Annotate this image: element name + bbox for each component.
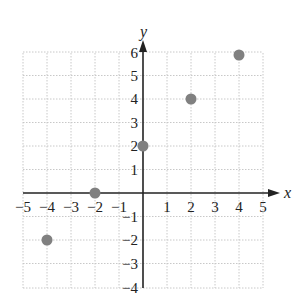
y-tick: −4 bbox=[122, 280, 138, 296]
y-axis-label: y bbox=[138, 23, 148, 41]
y-tick: 4 bbox=[131, 91, 139, 107]
y-tick: 5 bbox=[131, 68, 139, 84]
point-4-6 bbox=[234, 50, 245, 61]
point-2-4 bbox=[186, 94, 197, 105]
point-neg2-0 bbox=[90, 188, 101, 199]
x-tick: 5 bbox=[259, 199, 267, 215]
y-tick: −2 bbox=[122, 232, 138, 248]
y-tick: 2 bbox=[131, 138, 139, 154]
x-tick-labels: −5 −4 −3 −2 −1 1 2 3 4 5 bbox=[15, 199, 267, 215]
y-tick: −3 bbox=[122, 256, 138, 272]
y-tick-labels: 6 5 4 3 2 1 −1 −2 −3 −4 bbox=[122, 45, 138, 296]
x-axis-label: x bbox=[283, 184, 291, 201]
y-tick: 6 bbox=[131, 45, 139, 61]
axes bbox=[23, 48, 272, 288]
x-tick: 3 bbox=[211, 199, 219, 215]
coordinate-plane: x y −5 −4 −3 −2 −1 1 2 3 4 5 6 5 4 3 2 1… bbox=[0, 0, 301, 306]
x-tick: 1 bbox=[163, 199, 171, 215]
y-tick: 1 bbox=[131, 162, 139, 178]
y-tick: −1 bbox=[122, 209, 138, 225]
x-axis-arrow-icon bbox=[268, 189, 280, 197]
y-axis-arrow-icon bbox=[139, 40, 147, 52]
point-neg4-neg2 bbox=[42, 235, 53, 246]
point-0-2 bbox=[138, 141, 149, 152]
x-tick: −4 bbox=[39, 199, 55, 215]
x-tick: −2 bbox=[87, 199, 103, 215]
x-tick: 2 bbox=[187, 199, 195, 215]
x-tick: 4 bbox=[235, 199, 243, 215]
x-tick: −3 bbox=[63, 199, 79, 215]
y-tick: 3 bbox=[131, 115, 139, 131]
x-tick: −5 bbox=[15, 199, 31, 215]
